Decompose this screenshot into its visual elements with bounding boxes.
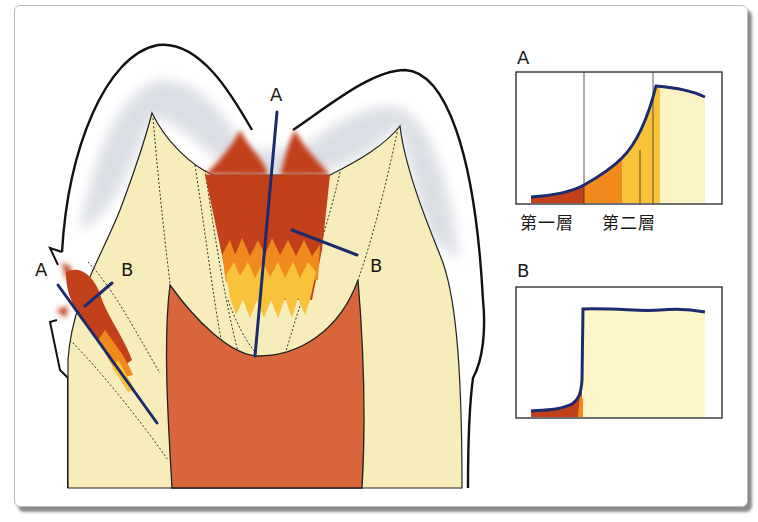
graph-a-layer-1-label: 第一層 (520, 215, 574, 232)
label-proximal-b: B (121, 261, 133, 279)
graph-a-layer-2-label: 第二層 (602, 215, 656, 232)
graph-a-title: A (517, 49, 529, 67)
label-occlusal-b: B (370, 257, 382, 275)
graph-a (516, 72, 722, 204)
graph-b (516, 287, 722, 418)
label-proximal-a: A (35, 261, 47, 279)
label-occlusal-a: A (270, 86, 282, 104)
graph-b-title: B (517, 262, 529, 280)
